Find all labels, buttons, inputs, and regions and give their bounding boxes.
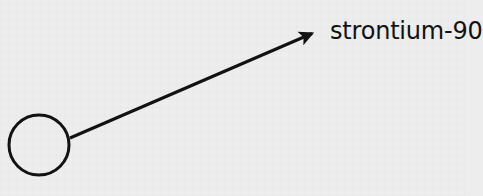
emission-arrow-up-right-icon — [70, 34, 312, 139]
isotope-label: strontium-90 — [330, 16, 483, 46]
nucleus-circle-outline-icon — [9, 115, 69, 175]
